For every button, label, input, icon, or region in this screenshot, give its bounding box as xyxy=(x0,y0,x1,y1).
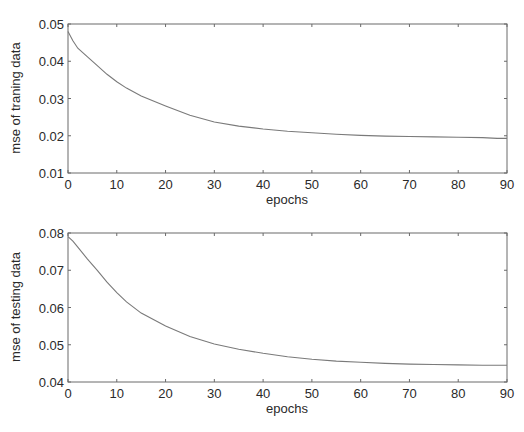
x-tick-label: 40 xyxy=(256,386,270,401)
testing-mse-panel: 0102030405060708090 0.040.050.060.070.08… xyxy=(8,226,514,416)
x-tick-label: 60 xyxy=(353,177,367,192)
x-tick-label: 70 xyxy=(402,386,416,401)
y-tick-label: 0.02 xyxy=(39,129,64,144)
x-tick-label: 50 xyxy=(305,386,319,401)
x-tick-label: 20 xyxy=(158,177,172,192)
x-ticks: 0102030405060708090 xyxy=(64,233,514,401)
y-tick-label: 0.03 xyxy=(39,92,64,107)
y-tick-label: 0.05 xyxy=(39,338,64,353)
x-tick-label: 50 xyxy=(305,177,319,192)
x-tick-label: 10 xyxy=(110,386,124,401)
x-tick-label: 10 xyxy=(110,177,124,192)
figure: 0102030405060708090 0.010.020.030.040.05… xyxy=(0,0,524,432)
x-tick-label: 90 xyxy=(500,386,514,401)
x-ticks: 0102030405060708090 xyxy=(64,24,514,192)
y-tick-label: 0.04 xyxy=(39,54,64,69)
x-tick-label: 30 xyxy=(207,386,221,401)
x-tick-label: 40 xyxy=(256,177,270,192)
y-ticks: 0.010.020.030.040.05 xyxy=(39,17,507,181)
x-tick-label: 0 xyxy=(64,386,71,401)
x-tick-label: 0 xyxy=(64,177,71,192)
y-tick-label: 0.06 xyxy=(39,301,64,316)
training-mse-line xyxy=(68,32,507,139)
x-tick-label: 20 xyxy=(158,386,172,401)
x-tick-label: 60 xyxy=(353,386,367,401)
plot-frame xyxy=(68,24,507,173)
x-tick-label: 90 xyxy=(500,177,514,192)
x-axis-title: epochs xyxy=(266,192,308,207)
y-tick-label: 0.08 xyxy=(39,226,64,241)
x-tick-label: 80 xyxy=(451,177,465,192)
x-tick-label: 30 xyxy=(207,177,221,192)
chart-canvas: 0102030405060708090 0.010.020.030.040.05… xyxy=(0,0,524,432)
y-tick-label: 0.01 xyxy=(39,166,64,181)
training-mse-panel: 0102030405060708090 0.010.020.030.040.05… xyxy=(8,17,514,207)
y-tick-label: 0.04 xyxy=(39,375,64,390)
y-axis-title: mse of traning data xyxy=(8,42,23,154)
testing-mse-line xyxy=(68,237,507,366)
x-tick-label: 80 xyxy=(451,386,465,401)
y-ticks: 0.040.050.060.070.08 xyxy=(39,226,507,390)
y-tick-label: 0.05 xyxy=(39,17,64,32)
y-axis-title: mse of testing data xyxy=(8,251,23,362)
x-tick-label: 70 xyxy=(402,177,416,192)
x-axis-title: epochs xyxy=(266,401,308,416)
y-tick-label: 0.07 xyxy=(39,263,64,278)
